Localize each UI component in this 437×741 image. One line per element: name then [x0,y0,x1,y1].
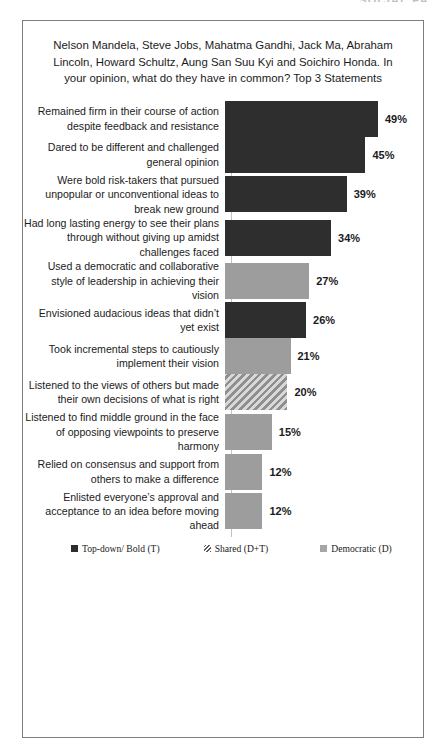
bar-category-label: Listened to find middle ground in the fa… [23,410,225,453]
bar-value-label: 12% [269,505,291,517]
legend-item-shared[interactable]: Shared (D+T) [204,543,269,554]
bar-category-label: Remained firm in their course of action … [23,104,225,133]
bar-value-label: 26% [313,314,335,326]
bar-value-label: 45% [372,149,394,161]
bar-category-label: Took incremental steps to cautiously imp… [23,342,225,371]
bar-category-label: Were bold risk-takers that pursued unpop… [23,173,225,216]
chart-title: Nelson Mandela, Steve Jobs, Mahatma Gand… [41,37,405,87]
legend-item-topdown[interactable]: Top-down/ Bold (T) [71,543,160,554]
bar-democratic[interactable] [225,338,291,374]
bar-track: 34% [225,220,423,256]
bar-value-label: 12% [269,466,291,478]
bar-track: 12% [225,454,423,490]
chart-plot-area: Remained firm in their course of action … [23,101,423,537]
chart-legend: Top-down/ Bold (T)Shared (D+T)Democratic… [23,543,423,554]
bar-track: 26% [225,302,423,338]
bar-row: Used a democratic and collaborative styl… [23,259,423,302]
legend-label: Democratic (D) [331,543,391,554]
legend-swatch-icon [71,545,78,552]
bar-category-label: Enlisted everyone’s approval and accepta… [23,490,225,533]
bar-track: 15% [225,414,423,450]
bar-track: 49% [225,101,423,137]
bar-topdown[interactable] [225,302,306,338]
bar-category-label: Envisioned audacious ideas that didn’t y… [23,306,225,335]
bar-value-label: 27% [316,275,338,287]
bar-value-label: 39% [354,188,376,200]
bar-row: Remained firm in their course of action … [23,101,423,137]
bar-track: 45% [225,137,423,173]
bar-track: 21% [225,338,423,374]
bar-topdown[interactable] [225,137,365,173]
bar-value-label: 21% [298,350,320,362]
legend-swatch-icon [204,545,211,552]
legend-label: Shared (D+T) [215,543,269,554]
legend-label: Top-down/ Bold (T) [82,543,160,554]
page-watermark: SOCIAL PA [359,0,429,2]
bar-track: 39% [225,176,423,212]
bar-track: 27% [225,263,423,299]
bar-topdown[interactable] [225,176,347,212]
bar-category-label: Used a democratic and collaborative styl… [23,259,225,302]
bar-row: Envisioned audacious ideas that didn’t y… [23,302,423,338]
bar-row: Listened to the views of others but made… [23,374,423,410]
bar-row: Had long lasting energy to see their pla… [23,216,423,259]
bar-row: Took incremental steps to cautiously imp… [23,338,423,374]
bar-row: Relied on consensus and support from oth… [23,454,423,490]
bar-value-label: 34% [338,232,360,244]
bar-value-label: 49% [385,113,407,125]
bar-value-label: 15% [279,426,301,438]
bar-democratic[interactable] [225,263,309,299]
legend-swatch-icon [320,545,327,552]
bar-shared[interactable] [225,374,287,410]
bar-row: Were bold risk-takers that pursued unpop… [23,173,423,216]
bar-category-label: Relied on consensus and support from oth… [23,457,225,486]
bar-democratic[interactable] [225,414,272,450]
bar-row: Dared to be different and challenged gen… [23,137,423,173]
bar-track: 12% [225,493,423,529]
chart-container: Nelson Mandela, Steve Jobs, Mahatma Gand… [22,20,424,738]
bar-category-label: Dared to be different and challenged gen… [23,140,225,169]
bar-track: 20% [225,374,423,410]
bar-value-label: 20% [294,386,316,398]
bar-topdown[interactable] [225,101,378,137]
bar-democratic[interactable] [225,454,262,490]
bar-democratic[interactable] [225,493,262,529]
bar-row: Enlisted everyone’s approval and accepta… [23,490,423,533]
bar-row: Listened to find middle ground in the fa… [23,410,423,453]
bar-category-label: Listened to the views of others but made… [23,378,225,407]
bar-category-label: Had long lasting energy to see their pla… [23,216,225,259]
bar-topdown[interactable] [225,220,331,256]
bar-list: Remained firm in their course of action … [23,101,423,533]
legend-item-democratic[interactable]: Democratic (D) [320,543,391,554]
